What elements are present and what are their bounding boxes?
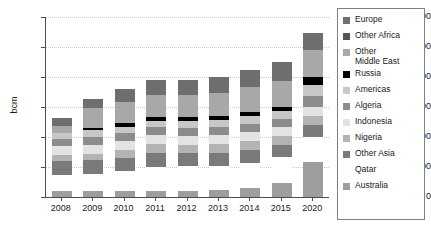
bar-segment-russia [209,116,229,120]
legend-swatch-icon [343,135,350,142]
bar-segment-qatar [209,166,229,191]
legend-label: Russia [355,68,381,78]
bar-segment-europe [272,62,292,81]
chart-legend: EuropeOther AfricaOther Middle EastRussi… [337,8,425,220]
x-axis-tick-label: 2009 [76,203,108,213]
legend-item-europe[interactable]: Europe [343,14,420,28]
bar-segment-algeria [83,137,103,145]
legend-swatch-icon [343,167,350,174]
bar-segment-other-asia [209,153,229,166]
bar-segment-other-asia [83,160,103,173]
legend-label: Other Middle East [355,46,399,66]
bar-segment-algeria [209,127,229,135]
legend-item-qatar[interactable]: Qatar [343,164,420,178]
x-axis-tick-label: 2013 [202,203,234,213]
bar-2020 [303,17,323,197]
bar-segment-algeria [52,139,72,146]
bar-segment-europe [209,77,229,93]
x-axis-tick-label: 2011 [139,203,171,213]
bar-segment-other-middle-east [146,95,166,117]
x-axis-tick-mark [61,197,62,201]
bar-segment-other-middle-east [178,95,198,117]
legend-item-other-asia[interactable]: Other Asia [343,148,420,162]
bar-segment-australia [146,191,166,197]
bar-segment-other-asia [240,150,260,163]
bar-segment-algeria [115,133,135,141]
bar-segment-other-asia [146,153,166,167]
bar-segment-nigeria [115,150,135,158]
legend-swatch-icon [343,103,350,110]
bar-segment-nigeria [240,141,260,150]
x-axis-tick-mark [249,197,250,201]
legend-label: Europe [355,14,382,24]
bar-segment-other-asia [303,125,323,137]
bar-segment-other-middle-east [83,108,103,128]
legend-label: Americas [355,84,390,94]
bar-segment-russia [83,128,103,130]
bar-segment-europe [115,89,135,102]
legend-swatch-icon [343,119,350,126]
legend-label: Indonesia [355,116,392,126]
bar-segment-russia [303,77,323,85]
bar-2008 [52,17,72,197]
bar-segment-other-asia [272,145,292,157]
bar-2013 [209,17,229,197]
x-axis-tick-label: 2015 [265,203,297,213]
legend-item-australia[interactable]: Australia [343,180,420,194]
bar-segment-russia [146,117,166,121]
x-axis-tick-label: 2014 [233,203,265,213]
x-axis-tick-mark [124,197,125,201]
bar-segment-europe [83,99,103,108]
bar-segment-americas [146,121,166,128]
bar-segment-qatar [52,175,72,192]
bar-segment-russia [240,112,260,116]
y-axis-title: bcm [9,85,19,125]
bar-segment-qatar [83,174,103,191]
legend-item-russia[interactable]: Russia [343,68,420,82]
bar-segment-qatar [115,171,135,191]
legend-label: Algeria [355,100,381,110]
bar-segment-indonesia [303,107,323,116]
bar-segment-other-asia [178,153,198,167]
bar-segment-australia [303,162,323,197]
legend-item-other-middle-east[interactable]: Other Middle East [343,46,420,66]
bar-segment-australia [209,190,229,197]
bar-segment-algeria [240,124,260,132]
bar-2010 [115,17,135,197]
bar-segment-nigeria [83,154,103,161]
bar-segment-indonesia [83,145,103,154]
bar-2011 [146,17,166,197]
bar-segment-other-middle-east [303,50,323,77]
x-axis-tick-mark [187,197,188,201]
bar-segment-indonesia [272,127,292,136]
legend-swatch-icon [343,71,350,78]
bar-segment-other-middle-east [272,81,292,107]
bar-segment-indonesia [240,132,260,141]
x-axis-tick-label: 2010 [108,203,140,213]
legend-label: Other Asia [355,148,395,158]
bar-segment-australia [115,191,135,197]
legend-swatch-icon [343,17,350,24]
legend-item-indonesia[interactable]: Indonesia [343,116,420,130]
stacked-bar-chart: bcm 0100200300400500600 2008200920102011… [0,0,431,228]
bar-segment-americas [209,120,229,127]
bar-segment-qatar [240,163,260,188]
legend-label: Nigeria [355,132,382,142]
bar-segment-qatar [272,157,292,182]
bar-2009 [83,17,103,197]
bar-2012 [178,17,198,197]
bar-segment-americas [272,111,292,119]
legend-item-algeria[interactable]: Algeria [343,100,420,114]
legend-item-other-africa[interactable]: Other Africa [343,30,420,44]
bar-segment-other-middle-east [240,87,260,112]
bar-segment-australia [52,191,72,197]
bar-segment-europe [178,80,198,96]
bar-segment-nigeria [178,145,198,153]
bar-segment-indonesia [209,135,229,144]
bar-segment-nigeria [303,116,323,125]
bar-segment-other-middle-east [115,102,135,123]
bar-segment-americas [303,85,323,96]
legend-item-nigeria[interactable]: Nigeria [343,132,420,146]
legend-item-americas[interactable]: Americas [343,84,420,98]
x-axis-tick-label: 2008 [45,203,77,213]
